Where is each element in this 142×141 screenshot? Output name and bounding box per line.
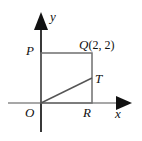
vertex-label-r: R xyxy=(83,106,91,119)
vertex-label-p: P xyxy=(26,44,34,57)
x-axis-label: x xyxy=(115,107,121,120)
square-opqr xyxy=(41,53,92,103)
geometry-figure: P Q(2, 2) T O R x y xyxy=(0,0,142,141)
y-axis-label: y xyxy=(50,10,56,23)
y-axis-arrow-icon xyxy=(34,12,48,30)
origin-label-o: O xyxy=(25,106,34,119)
vertex-label-q-coordinates: (2, 2) xyxy=(88,38,114,52)
segment-ot xyxy=(41,78,92,103)
point-label-t: T xyxy=(95,72,102,85)
vertex-label-q-letter: Q xyxy=(79,37,88,52)
vertex-label-q: Q(2, 2) xyxy=(79,38,114,51)
